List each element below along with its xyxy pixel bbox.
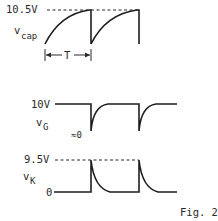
period-label: T xyxy=(64,49,71,61)
vk-name-sub: K xyxy=(30,176,36,186)
vcap-name-sub: cap xyxy=(21,31,37,41)
period-marker: T xyxy=(45,49,91,61)
vk-trace xyxy=(54,160,177,192)
vg-high-label: 10V xyxy=(31,98,51,110)
figure-caption: Fig. 2 xyxy=(180,206,218,218)
vk-peak-label: 9.5V xyxy=(24,153,50,165)
vcap-peak-label: 10.5V xyxy=(6,3,38,15)
vg-name: v xyxy=(36,116,42,128)
vg-name-sub: G xyxy=(43,122,48,132)
vk-plot: 9.5V v K 0 xyxy=(23,153,177,198)
vcap-name: v xyxy=(14,24,20,36)
vk-base-label: 0 xyxy=(46,186,52,198)
vg-trace xyxy=(55,104,177,131)
vk-name: v xyxy=(23,170,29,182)
vcap-plot: 10.5V v cap T xyxy=(6,3,140,61)
vg-low-label: ≈0 xyxy=(71,130,82,140)
vg-plot: 10V v G ≈0 xyxy=(31,98,177,140)
waveform-diagram: 10.5V v cap T 10V v G ≈0 9.5V v K 0 Fig.… xyxy=(0,0,218,221)
vcap-trace xyxy=(45,10,139,44)
